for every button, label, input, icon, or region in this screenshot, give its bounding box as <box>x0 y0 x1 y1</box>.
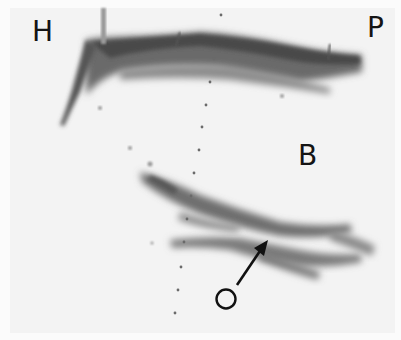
label-top-right: P <box>367 14 384 42</box>
posterior-echo-streaks <box>140 172 375 280</box>
echo-layer <box>0 0 401 340</box>
label-center: B <box>298 142 317 170</box>
anterior-wall-echo <box>60 8 362 126</box>
label-top-left: H <box>32 18 53 46</box>
ultrasound-figure: H P B <box>0 0 401 340</box>
marker-circle-icon <box>217 290 236 309</box>
